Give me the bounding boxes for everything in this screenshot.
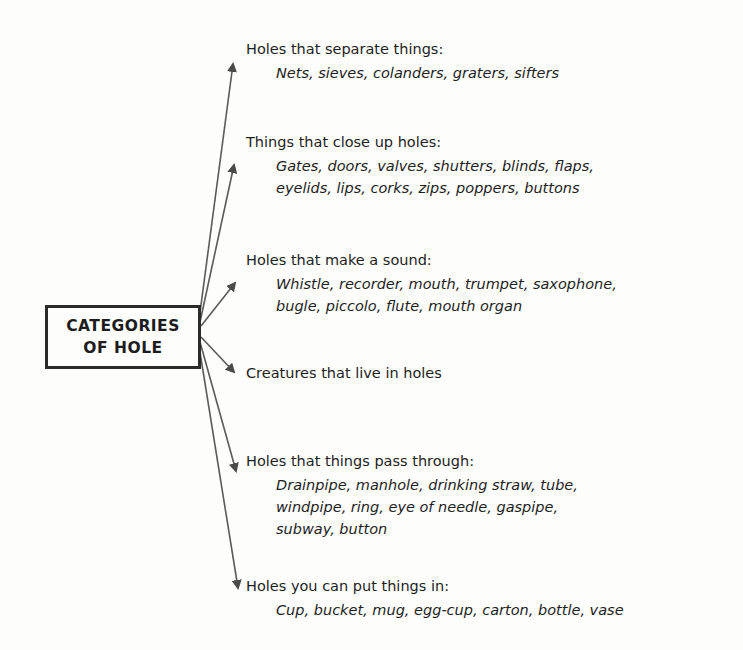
category-put-in: Holes you can put things in: Cup, bucket… xyxy=(246,577,624,621)
category-heading: Things that close up holes: xyxy=(246,133,594,151)
arrow-put-in xyxy=(199,346,238,588)
category-item-line: Drainpipe, manhole, drinking straw, tube… xyxy=(276,474,578,496)
category-item-line: eyelids, lips, corks, zips, poppers, but… xyxy=(276,177,594,199)
category-item-line: windpipe, ring, eye of needle, gaspipe, xyxy=(276,496,578,518)
central-concept-box: CATEGORIES OF HOLE xyxy=(45,305,201,369)
category-heading: Creatures that live in holes xyxy=(246,364,442,382)
central-concept-line-1: CATEGORIES xyxy=(66,315,180,337)
category-separate: Holes that separate things: Nets, sieves… xyxy=(246,40,559,84)
category-items: Drainpipe, manhole, drinking straw, tube… xyxy=(276,474,578,540)
category-item-line: Gates, doors, valves, shutters, blinds, … xyxy=(276,155,594,177)
arrow-creatures xyxy=(201,337,234,372)
category-pass-through: Holes that things pass through: Drainpip… xyxy=(246,452,578,540)
category-item-line: Whistle, recorder, mouth, trumpet, saxop… xyxy=(276,273,617,295)
category-heading: Holes that separate things: xyxy=(246,40,559,58)
category-sound: Holes that make a sound: Whistle, record… xyxy=(246,251,617,317)
category-item-line: Nets, sieves, colanders, graters, sifter… xyxy=(276,62,559,84)
category-creatures: Creatures that live in holes xyxy=(246,364,442,382)
category-close-up: Things that close up holes: Gates, doors… xyxy=(246,133,594,199)
category-items: Cup, bucket, mug, egg-cup, carton, bottl… xyxy=(276,599,624,621)
category-item-line: Cup, bucket, mug, egg-cup, carton, bottl… xyxy=(276,599,624,621)
central-concept-line-2: OF HOLE xyxy=(83,337,162,359)
category-items: Nets, sieves, colanders, graters, sifter… xyxy=(276,62,559,84)
category-item-line: bugle, piccolo, flute, mouth organ xyxy=(276,295,617,317)
category-heading: Holes that make a sound: xyxy=(246,251,617,269)
category-item-line: subway, button xyxy=(276,518,578,540)
arrow-pass-through xyxy=(200,342,236,471)
category-items: Gates, doors, valves, shutters, blinds, … xyxy=(276,155,594,199)
category-items: Whistle, recorder, mouth, trumpet, saxop… xyxy=(276,273,617,317)
category-heading: Holes you can put things in: xyxy=(246,577,624,595)
arrow-sound xyxy=(201,283,235,326)
category-heading: Holes that things pass through: xyxy=(246,452,578,470)
